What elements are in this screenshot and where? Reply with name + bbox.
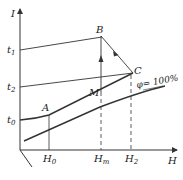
y-tick-t1: t1 (7, 44, 16, 57)
arrow-up-icon (99, 55, 104, 62)
point-a-label: A (41, 102, 49, 113)
point-m-label: M (88, 87, 100, 98)
x-tick-h0: H0 (42, 153, 57, 166)
y-tick-t0: t0 (7, 114, 16, 127)
isotherm-t1 (20, 37, 102, 50)
psychrometric-diagram: I H t1 t2 t0 H0 Hm H2 A B C M φ= 100% (0, 0, 183, 180)
oblique-axis-stub (20, 150, 32, 167)
x-tick-hm: Hm (93, 153, 110, 166)
y-axis-label: I (10, 8, 16, 19)
y-tick-t2: t2 (7, 81, 16, 94)
point-b-label: B (95, 24, 103, 35)
point-c-label: C (134, 65, 142, 76)
isotherm-t2 (20, 73, 133, 87)
x-tick-h2: H2 (124, 153, 139, 166)
x-axis-label: H (167, 155, 177, 166)
